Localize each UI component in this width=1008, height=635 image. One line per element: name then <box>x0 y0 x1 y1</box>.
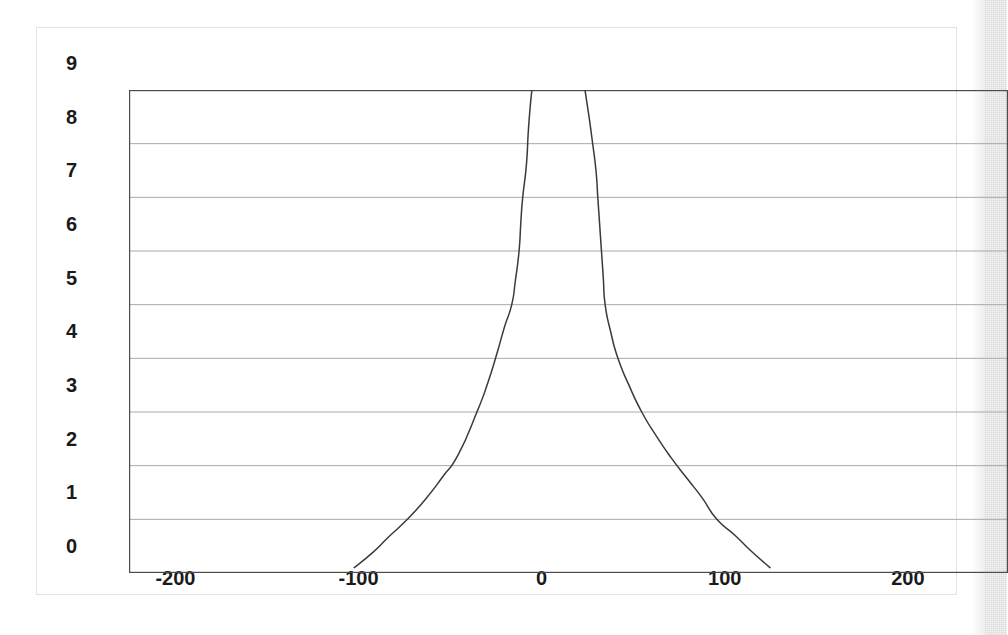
plot-border <box>130 91 1008 573</box>
y-tick-label: 1 <box>37 482 77 502</box>
y-tick-label: 3 <box>37 375 77 395</box>
y-tick-label: 2 <box>37 429 77 449</box>
y-tick-label: 8 <box>37 107 77 127</box>
y-tick-label: 6 <box>37 214 77 234</box>
series-line-left-branch <box>354 90 532 568</box>
series-line-right-branch <box>585 90 770 568</box>
y-tick-label: 4 <box>37 321 77 341</box>
y-tick-label: 7 <box>37 160 77 180</box>
gridlines-group <box>129 144 1008 520</box>
y-tick-label: 0 <box>37 536 77 556</box>
y-tick-label: 5 <box>37 268 77 288</box>
y-tick-label: 9 <box>37 53 77 73</box>
plot-svg <box>129 90 1008 573</box>
plot-area <box>129 90 1008 573</box>
data-series-group <box>354 90 770 568</box>
chart-outer-frame: 0123456789 -200-1000100200 <box>36 27 957 595</box>
plot-border-rect <box>130 91 1008 573</box>
